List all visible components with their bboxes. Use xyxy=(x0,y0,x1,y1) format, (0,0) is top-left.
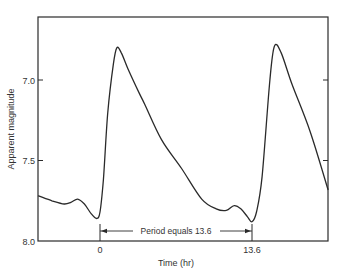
light-curve-chart: 7.07.58.0 013.6 Period equals 13.6 Appar… xyxy=(0,0,344,277)
arrow-left-icon xyxy=(101,229,107,233)
y-tick-label: 8.0 xyxy=(22,237,35,247)
y-axis-ticks: 7.07.58.0 xyxy=(22,76,328,247)
y-tick-label: 7.5 xyxy=(22,156,35,166)
x-axis-label: Time (hr) xyxy=(158,258,194,268)
x-tick-label: 0 xyxy=(97,245,102,255)
period-annotation-text: Period equals 13.6 xyxy=(141,226,212,236)
arrow-right-icon xyxy=(245,229,251,233)
y-tick-label: 7.0 xyxy=(22,76,35,86)
period-annotation: Period equals 13.6 xyxy=(100,224,252,241)
y-axis-label: Apparent magnitude xyxy=(6,88,16,169)
x-tick-label: 13.6 xyxy=(243,245,261,255)
plot-frame xyxy=(38,17,328,241)
x-axis-ticks: 013.6 xyxy=(97,245,260,255)
light-curve-line xyxy=(39,44,329,221)
